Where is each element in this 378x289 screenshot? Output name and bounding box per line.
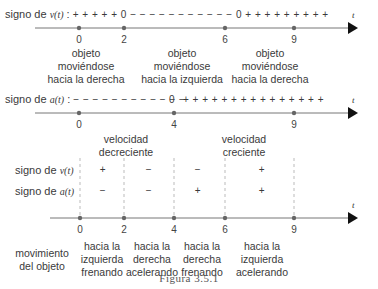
sign-label-function: v(t)	[50, 9, 64, 20]
tick-label: 9	[291, 34, 297, 45]
acceleration-sign-label: signo de a(t)	[15, 185, 74, 197]
velocity-trend: velocidad decreciente	[99, 133, 153, 159]
tick-label: 6	[222, 224, 228, 235]
time-axis-2	[35, 107, 358, 119]
velocity-sign-sequence: + + + + + 0 − − − − − − − − − − − 0 + + …	[73, 9, 329, 20]
sign-label-colon: :	[64, 93, 70, 105]
acceleration-sign-positive: + + + + + + + + + + + + + + +	[183, 94, 324, 105]
motion-description: objeto moviéndose hacia la derecha	[231, 47, 308, 86]
sign-label-prefix: signo de	[5, 8, 50, 20]
velocity-sign-cell: +	[259, 164, 265, 175]
motion-description: objeto moviéndose hacia la derecha	[47, 47, 124, 86]
axis-variable-label: t	[352, 10, 355, 20]
tick-label: 2	[121, 34, 127, 45]
tick-label: 0	[76, 119, 82, 130]
tick-label: 9	[291, 224, 297, 235]
velocity-sign-cell: −	[146, 164, 152, 175]
tick-label: 4	[171, 119, 177, 130]
sign-label-prefix: signo de	[5, 93, 50, 105]
acceleration-sign-cell: +	[195, 185, 201, 196]
tick-label: 0	[76, 34, 82, 45]
velocity-sign-cell: −	[195, 164, 201, 175]
motion-description: hacia la izquierda acelerando	[236, 240, 288, 279]
acceleration-sign-cell: −	[100, 185, 106, 196]
figure-caption: Figura 3.5.1	[159, 272, 218, 284]
tick-label: 4	[171, 224, 177, 235]
axis-variable-label: t	[352, 200, 355, 210]
tick-label: 9	[291, 119, 297, 130]
sign-label-colon: :	[64, 8, 70, 20]
velocity-sign-cell: +	[100, 164, 106, 175]
velocity-sign-label: signo de v(t)	[15, 164, 74, 176]
sign-label-function: a(t)	[50, 94, 64, 105]
time-axis-3	[50, 158, 358, 224]
tick-label: 6	[222, 34, 228, 45]
acceleration-sign-cell: +	[259, 185, 265, 196]
axis-variable-label: t	[352, 95, 355, 105]
acceleration-sign-zero: 0	[169, 94, 175, 105]
velocity-sign-row: signo de v(t) : + + + + + 0 − − − − − − …	[5, 8, 329, 20]
acceleration-sign-cell: −	[146, 185, 152, 196]
tick-label: 0	[77, 224, 83, 235]
motion-row-label: movimiento del objeto	[15, 247, 69, 273]
motion-description: objeto moviéndose hacia la izquierda	[141, 47, 223, 86]
motion-description: hacia la izquierda frenando	[81, 240, 124, 279]
time-axis-1	[35, 22, 358, 34]
acceleration-sign-row: signo de a(t) : − − − − − − − − − − − −	[5, 93, 185, 105]
tick-label: 2	[121, 224, 127, 235]
velocity-trend: velocidad creciente	[222, 133, 266, 159]
